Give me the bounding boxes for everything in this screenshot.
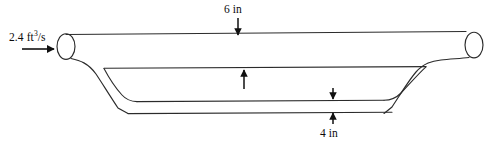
pipe-left-transition-outer <box>71 59 128 114</box>
flow-diagram-figure: 2.4 ft3/s 6 in 4 in <box>0 0 497 147</box>
channel-body <box>104 67 426 114</box>
channel-top-rim <box>104 67 426 69</box>
bottom-dimension-label: 4 in <box>320 127 338 140</box>
inlet-flow-unit-per: /s <box>38 31 46 43</box>
top-dimension-label: 6 in <box>224 3 242 16</box>
pipe-right-transition-outer <box>384 58 469 114</box>
diagram-canvas <box>0 0 497 147</box>
inlet-flow-unit-base: ft <box>27 31 34 43</box>
pipe-top-wall <box>66 32 466 35</box>
channel-inner-left-wall <box>104 68 137 101</box>
inlet-flow-label: 2.4 ft3/s <box>9 31 46 44</box>
channel-inner-right-wall <box>384 67 426 101</box>
pipe-left-opening-ellipse <box>57 34 75 60</box>
channel-outer-bottom-line <box>128 112 392 113</box>
inlet-flow-value: 2.4 <box>9 31 24 43</box>
channel-floor-line <box>137 100 384 101</box>
pipe-right-opening-ellipse <box>465 32 483 58</box>
